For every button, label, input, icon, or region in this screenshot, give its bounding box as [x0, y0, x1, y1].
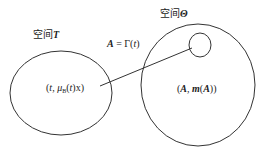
left-close: )x) [72, 82, 84, 93]
space-theta-prefix: 空间 [160, 8, 180, 19]
mapping-line [100, 48, 192, 86]
diagram-canvas [0, 0, 263, 148]
mapping-lhs: A [107, 38, 114, 49]
space-t-prefix: 空间 [33, 29, 53, 40]
space-t-symbol: T [53, 29, 59, 40]
space-theta-label: 空间Θ [160, 8, 188, 20]
right-close: )) [210, 83, 217, 94]
mapping-label: A = Γ(t) [107, 38, 140, 50]
left-set-element: (t, μB(t)x) [46, 82, 84, 94]
mapping-close: ) [136, 38, 139, 49]
left-mu: , μ [52, 82, 62, 93]
right-set-element: (A, m(A)) [177, 83, 216, 95]
right-m: m [192, 83, 200, 94]
space-theta-symbol: Θ [180, 8, 188, 19]
mapping-eq: = Γ( [114, 38, 134, 49]
subset-a-ellipse [189, 33, 211, 57]
space-t-label: 空间T [33, 29, 59, 41]
right-a: A [180, 83, 187, 94]
right-a2: A [203, 83, 210, 94]
